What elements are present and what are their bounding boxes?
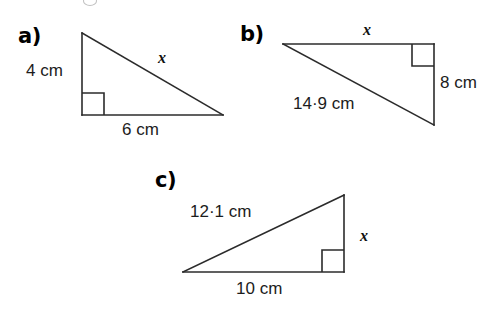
worksheet-canvas: a) 4 cm 6 cm x b) x 8 cm: [0, 0, 504, 309]
triangle-a-vertical-leg-label: 4 cm: [26, 62, 63, 80]
figure-a: a) 4 cm 6 cm x: [0, 0, 240, 150]
triangle-b-hypotenuse-label: 14·9 cm: [293, 95, 354, 113]
triangle-b-horizontal-leg-label: x: [363, 22, 371, 38]
triangle-a-hypotenuse-label: x: [158, 50, 166, 66]
triangle-c-vertical-leg-label: x: [360, 228, 368, 244]
triangle-c-right-angle-mark: [322, 250, 344, 272]
figure-c: c) 12·1 cm 10 cm x: [140, 160, 400, 309]
triangle-b-vertical-leg-label: 8 cm: [440, 74, 477, 92]
triangle-a-horizontal-leg-label: 6 cm: [122, 121, 159, 139]
triangle-a-right-angle-mark: [82, 93, 104, 115]
triangle-c-horizontal-leg-label: 10 cm: [236, 280, 282, 298]
triangle-a-hypotenuse: [82, 33, 223, 115]
triangle-b-right-angle-mark: [412, 44, 434, 66]
figure-b: b) x 8 cm 14·9 cm: [232, 0, 504, 150]
triangle-c-hypotenuse-label: 12·1 cm: [190, 203, 251, 221]
